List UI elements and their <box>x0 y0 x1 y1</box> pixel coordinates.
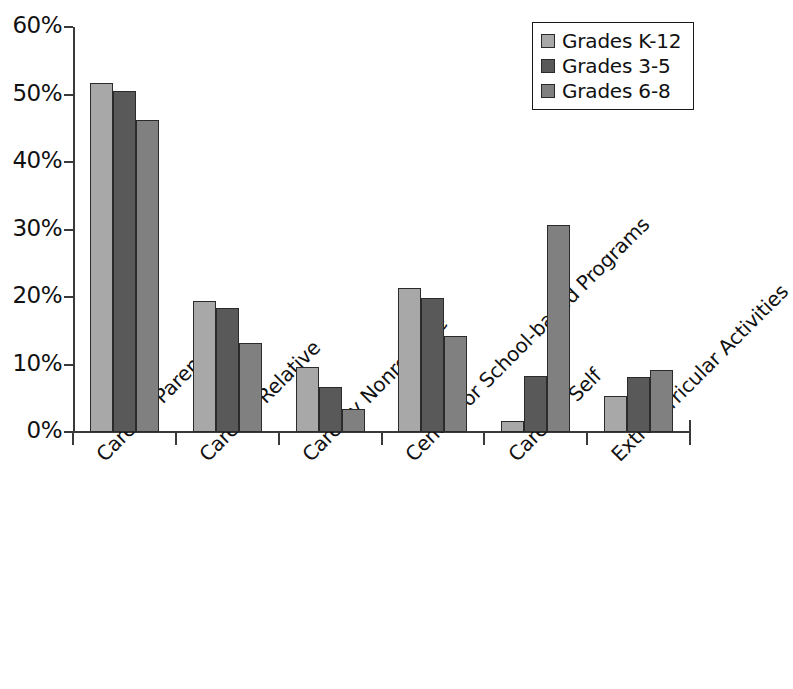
bar[interactable] <box>501 421 524 432</box>
bar[interactable] <box>319 387 342 432</box>
bar[interactable] <box>216 308 239 432</box>
bar[interactable] <box>444 336 467 432</box>
x-axis-tick <box>175 433 177 445</box>
bar[interactable] <box>342 409 365 432</box>
y-axis-tick <box>64 296 73 298</box>
x-axis-tick <box>689 433 691 445</box>
x-axis-tick <box>483 433 485 445</box>
y-axis-label: 0% <box>0 419 62 442</box>
bar[interactable] <box>136 120 159 432</box>
legend: Grades K-12 Grades 3-5 Grades 6-8 <box>532 22 694 110</box>
bar[interactable] <box>650 370 673 432</box>
legend-swatch-grades-3-5 <box>541 59 555 73</box>
x-axis-tick <box>278 433 280 445</box>
bar[interactable] <box>193 301 216 432</box>
y-axis-label: 30% <box>0 217 62 240</box>
y-axis-tick <box>64 26 73 28</box>
x-axis-tick <box>72 433 74 445</box>
bar[interactable] <box>113 91 136 432</box>
y-axis-tick <box>64 364 73 366</box>
y-axis-label: 50% <box>0 82 62 105</box>
bar[interactable] <box>627 377 650 432</box>
legend-swatch-grades-k12 <box>541 34 555 48</box>
x-axis-tick <box>381 433 383 445</box>
legend-label-grades-k12: Grades K-12 <box>562 30 681 52</box>
bar[interactable] <box>239 343 262 432</box>
y-axis-tick <box>64 229 73 231</box>
legend-item[interactable]: Grades K-12 <box>541 28 681 53</box>
y-axis-tick <box>64 94 73 96</box>
y-axis-tick <box>64 161 73 163</box>
legend-label-grades-6-8: Grades 6-8 <box>562 80 670 102</box>
y-axis-label: 10% <box>0 352 62 375</box>
bar-group <box>73 27 176 432</box>
bar[interactable] <box>296 367 319 432</box>
y-axis-label: 40% <box>0 149 62 172</box>
bar[interactable] <box>90 83 113 432</box>
bar[interactable] <box>398 288 421 432</box>
y-axis-label: 20% <box>0 284 62 307</box>
bar[interactable] <box>547 225 570 432</box>
bar[interactable] <box>604 396 627 432</box>
bar[interactable] <box>421 298 444 432</box>
y-axis-label: 60% <box>0 14 62 37</box>
x-axis-tick <box>586 433 588 445</box>
legend-swatch-grades-6-8 <box>541 84 555 98</box>
legend-label-grades-3-5: Grades 3-5 <box>562 55 670 77</box>
bar[interactable] <box>524 376 547 432</box>
legend-item[interactable]: Grades 3-5 <box>541 53 681 78</box>
legend-item[interactable]: Grades 6-8 <box>541 78 681 103</box>
